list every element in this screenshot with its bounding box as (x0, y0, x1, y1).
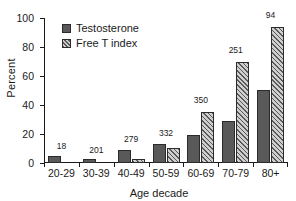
legend-item-free-t-index: Free T index (62, 37, 139, 49)
x-axis-category-label: 70-79 (218, 167, 253, 179)
bar-group: 251 (218, 18, 253, 163)
bar-group: 350 (183, 18, 218, 163)
group-sample-size-label: 350 (194, 96, 208, 105)
bar-testosterone-30-39 (83, 159, 96, 163)
bar-free-t-index-70-79 (236, 62, 249, 164)
bar-testosterone-40-49 (118, 150, 131, 163)
y-axis-tick-label: 60 (22, 71, 34, 82)
bar-testosterone-50-59 (153, 144, 166, 163)
legend-label-free-t-index: Free T index (76, 37, 137, 49)
legend-item-testosterone: Testosterone (62, 22, 139, 34)
x-axis-category-label: 80+ (253, 167, 288, 179)
legend-label-testosterone: Testosterone (76, 22, 139, 34)
x-axis-category-label: 40-49 (114, 167, 149, 179)
y-axis-title: Percent (5, 48, 17, 108)
bar-group: 94 (253, 18, 288, 163)
bar-free-t-index-80+ (271, 27, 284, 163)
y-axis-tick-label: 40 (22, 100, 34, 111)
bar-group: 332 (149, 18, 184, 163)
group-sample-size-label: 332 (159, 129, 173, 138)
y-axis-tick-label: 20 (22, 129, 34, 140)
bar-testosterone-70-79 (222, 121, 235, 163)
y-axis-tick-label: 0 (28, 158, 34, 169)
group-sample-size-label: 251 (229, 46, 243, 55)
bar-chart: Percent 020406080100 1820127933235025194… (0, 0, 296, 201)
bar-testosterone-60-69 (187, 135, 200, 163)
legend-swatch-icon-testosterone (62, 24, 71, 33)
bar-free-t-index-60-69 (201, 112, 214, 163)
y-axis-tick-label: 100 (16, 13, 34, 24)
group-sample-size-label: 279 (124, 135, 138, 144)
x-axis-category-label: 50-59 (149, 167, 184, 179)
y-axis-tick-label: 80 (22, 42, 34, 53)
x-axis-category-label: 60-69 (183, 167, 218, 179)
x-axis-title: Age decade (0, 187, 296, 199)
chart-legend: Testosterone Free T index (62, 22, 139, 52)
x-axis-category-label: 20-29 (44, 167, 79, 179)
group-sample-size-label: 18 (57, 142, 66, 151)
x-axis-category-label: 30-39 (79, 167, 114, 179)
group-sample-size-label: 201 (89, 146, 103, 155)
bar-testosterone-20-29 (48, 156, 61, 163)
legend-swatch-icon-free-t-index (62, 39, 71, 48)
bar-free-t-index-40-49 (132, 159, 145, 163)
group-sample-size-label: 94 (266, 11, 275, 20)
bar-testosterone-80+ (257, 90, 270, 163)
x-axis-category-labels: 20-2930-3940-4950-5960-6970-7980+ (44, 167, 288, 179)
bar-free-t-index-50-59 (167, 148, 180, 163)
